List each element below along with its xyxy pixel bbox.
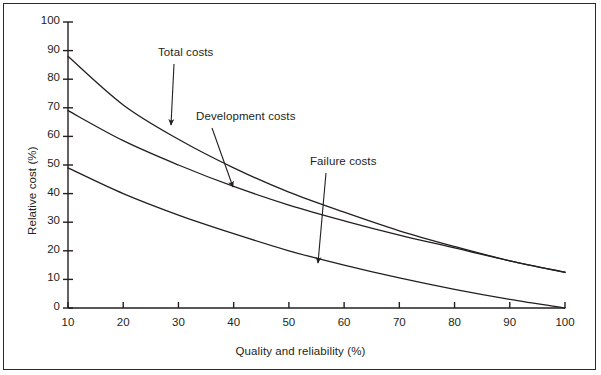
y-tick-label: 0 <box>26 300 60 312</box>
x-tick-label: 80 <box>435 316 475 328</box>
x-tick-label: 30 <box>158 316 198 328</box>
x-tick-label: 20 <box>103 316 143 328</box>
annotation-development-costs: Development costs <box>196 110 296 122</box>
y-tick-label: 20 <box>26 243 60 255</box>
x-tick-label: 60 <box>324 316 364 328</box>
x-tick-label: 10 <box>48 316 88 328</box>
annotation-failure-costs: Failure costs <box>310 155 377 167</box>
y-tick-label: 90 <box>26 43 60 55</box>
y-tick-label: 70 <box>26 100 60 112</box>
y-tick-label: 80 <box>26 71 60 83</box>
chart-curves <box>68 56 565 308</box>
x-tick-label: 70 <box>379 316 419 328</box>
y-tick-label: 100 <box>26 14 60 26</box>
annotation-total-costs: Total costs <box>158 46 213 58</box>
annotation-leaders <box>171 64 326 263</box>
x-axis-label: Quality and reliability (%) <box>0 345 601 357</box>
y-tick-label: 60 <box>26 128 60 140</box>
y-tick-label: 10 <box>26 271 60 283</box>
x-tick-label: 40 <box>214 316 254 328</box>
y-tick-label: 30 <box>26 214 60 226</box>
x-tick-label: 90 <box>490 316 530 328</box>
x-tick-label: 50 <box>269 316 309 328</box>
y-tick-label: 40 <box>26 186 60 198</box>
y-tick-label: 50 <box>26 157 60 169</box>
x-tick-label: 100 <box>545 316 585 328</box>
